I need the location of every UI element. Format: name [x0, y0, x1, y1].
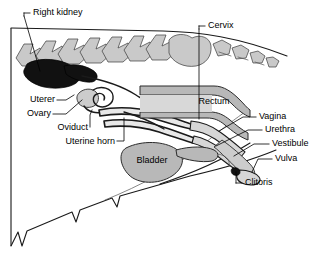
label-uterer: Uterer [30, 94, 55, 104]
label-cervix: Cervix [208, 20, 234, 30]
leader-right-kidney-bracket [24, 13, 30, 16]
caudal-vertebra-1 [213, 40, 231, 56]
label-uterine-horn: Uterine horn [65, 136, 115, 146]
rectum-inline-label: Rectum [198, 96, 229, 106]
leader-uterer [57, 95, 74, 100]
label-oviduct: Oviduct [57, 122, 88, 132]
leader-oviduct [90, 110, 92, 127]
label-vulva: Vulva [275, 153, 297, 163]
bladder-inline-label: Bladder [136, 155, 167, 165]
label-vagina: Vagina [259, 111, 286, 121]
anatomy-figure: Rectum Bladder [0, 0, 325, 263]
label-clitoris: Clitoris [245, 177, 273, 187]
anatomy-diagram: Rectum Bladder [0, 0, 325, 263]
caudal-vertebra-3 [250, 51, 265, 63]
label-vestibule: Vestibule [272, 138, 309, 148]
label-urethra: Urethra [265, 124, 295, 134]
leader-vulva [252, 159, 272, 172]
caudal-vertebra-4 [266, 57, 279, 67]
sacrum [169, 34, 211, 66]
bladder-group: Bladder [121, 142, 218, 182]
label-ovary: Ovary [27, 108, 52, 118]
clitoris-shape [231, 168, 240, 176]
caudal-vertebra-2 [232, 45, 249, 59]
kidney-group [24, 59, 97, 88]
label-right-kidney: Right kidney [33, 7, 83, 17]
leader-cervix-bracket [199, 26, 205, 29]
